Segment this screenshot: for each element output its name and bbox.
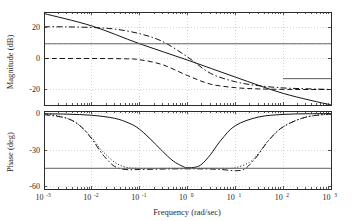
svg-text:2: 2 [286,192,289,198]
ytick-label: -30 [29,146,40,155]
svg-text:10: 10 [323,193,331,202]
svg-text:1: 1 [238,192,241,198]
ytick-label: -60 [29,182,40,191]
phase-axis-title: Phase (deg) [5,132,15,172]
svg-text:-3: -3 [46,192,51,198]
svg-text:10: 10 [179,193,187,202]
svg-text:10: 10 [36,193,44,202]
svg-text:10: 10 [131,193,139,202]
svg-text:0: 0 [191,192,194,198]
svg-text:10: 10 [275,193,283,202]
ytick-label: -20 [29,85,40,94]
magnitude-axis-title: Magnitude (dB) [5,35,15,90]
svg-text:3: 3 [334,192,337,198]
bode-plot-svg: 200-20 0-30-60 10-310-210-1100101102103 … [0,0,352,221]
svg-text:10: 10 [83,193,91,202]
frequency-axis-title: Frequency (rad/sec) [153,207,221,217]
bode-plot-figure: 200-20 0-30-60 10-310-210-1100101102103 … [0,0,352,221]
ytick-label: 20 [32,23,40,32]
svg-text:10: 10 [227,193,235,202]
ytick-label: 0 [36,54,40,63]
svg-text:-2: -2 [94,192,99,198]
svg-text:-1: -1 [142,192,147,198]
ytick-label: 0 [36,109,40,118]
